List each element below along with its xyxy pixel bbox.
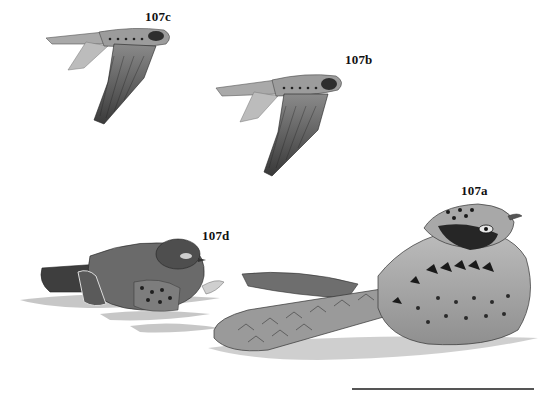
- figure-label-107c: 107c: [145, 9, 171, 25]
- figure-label-107b: 107b: [345, 52, 373, 68]
- bird-figure-107a: [208, 198, 543, 368]
- bird-figure-107c: [44, 26, 176, 126]
- bird-figure-107d: [10, 232, 240, 342]
- scale-bar: [352, 388, 534, 390]
- illustration-plate: 107c 107b: [0, 0, 543, 393]
- figure-label-107a: 107a: [461, 183, 488, 199]
- bird-figure-107b: [214, 68, 346, 178]
